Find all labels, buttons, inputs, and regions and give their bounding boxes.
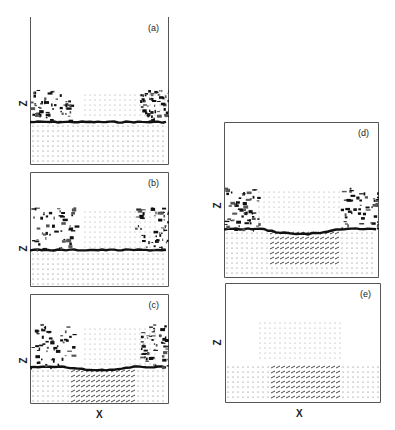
panel-label: (b) xyxy=(148,178,159,188)
panel-e: (e) xyxy=(225,283,381,403)
panel-label: (e) xyxy=(360,289,371,299)
panel-label: (d) xyxy=(358,128,369,138)
x-axis-label: X xyxy=(96,409,103,420)
velocity-field-plot xyxy=(30,172,169,287)
panel-a: (a) xyxy=(30,17,169,165)
z-axis-label: Z xyxy=(18,357,29,363)
velocity-field-plot xyxy=(30,17,169,165)
panel-label: (c) xyxy=(149,300,160,310)
velocity-field-plot xyxy=(225,283,381,403)
z-axis-label: Z xyxy=(212,339,223,345)
velocity-field-plot xyxy=(224,122,379,278)
x-axis-label: X xyxy=(296,408,303,419)
z-axis-label: Z xyxy=(18,100,29,106)
panel-label: (a) xyxy=(148,23,159,33)
panel-d: (d) xyxy=(224,122,379,278)
velocity-field-plot xyxy=(30,294,169,404)
z-axis-label: Z xyxy=(212,202,223,208)
panel-c: (c) xyxy=(30,294,169,404)
z-axis-label: Z xyxy=(18,245,29,251)
panel-b: (b) xyxy=(30,172,169,287)
